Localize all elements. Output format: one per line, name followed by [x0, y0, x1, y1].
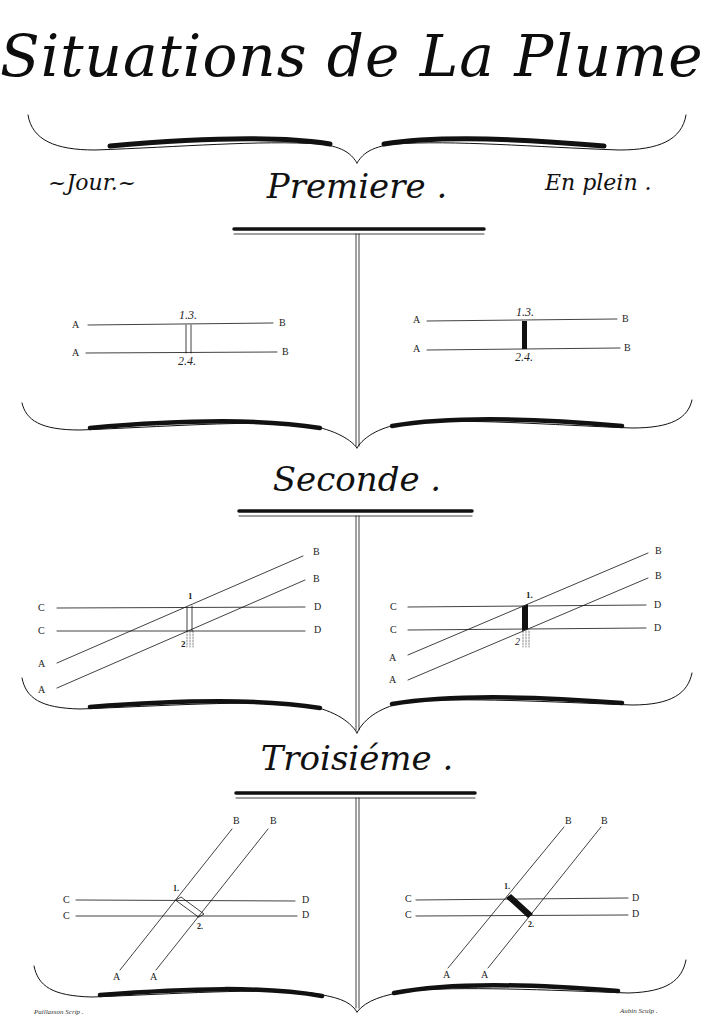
label-b-upper: B — [655, 545, 662, 556]
label-a-bottom: A — [72, 347, 79, 358]
label-b-bottom: B — [282, 346, 289, 357]
label-b-lower: B — [655, 570, 662, 581]
label-a-lower: A — [389, 674, 396, 685]
label-a-left: A — [443, 969, 450, 980]
premiere-right-diagram — [427, 319, 620, 350]
label-d-bottom: D — [632, 908, 639, 919]
label-c-bottom: C — [63, 910, 70, 921]
credit-scriptor: Paillasson Scrip . — [34, 1008, 84, 1016]
label-a-top: A — [72, 319, 79, 330]
number-2-4: 2.4. — [178, 354, 196, 369]
section-premiere-frame — [22, 229, 692, 448]
number-2: 2. — [528, 920, 534, 929]
label-b-upper: B — [313, 546, 320, 557]
label-d-bottom: D — [302, 909, 309, 920]
plate-title: Situations de La Plume . — [0, 22, 714, 90]
number-1-3: 1.3. — [179, 308, 197, 323]
label-b-left: B — [565, 815, 572, 826]
label-b-top: B — [622, 313, 629, 324]
label-c-top: C — [63, 894, 70, 905]
label-b-right: B — [270, 815, 277, 826]
label-b-left: B — [233, 815, 240, 826]
seconde-left-diagram — [57, 556, 305, 688]
troisieme-left-diagram — [76, 829, 297, 970]
number-2: 2 — [181, 639, 186, 649]
label-a-right: A — [481, 969, 488, 980]
label-a-bottom: A — [413, 343, 420, 354]
title-brace-flourish — [28, 115, 686, 163]
number-1: 1. — [173, 884, 179, 893]
engraving-plate — [0, 0, 714, 1021]
section-title-premiere: Premiere . — [0, 166, 714, 206]
label-a-upper: A — [389, 652, 396, 663]
label-c-bottom: C — [390, 624, 397, 635]
label-b-right: B — [601, 815, 608, 826]
label-c-top: C — [38, 602, 45, 613]
label-a-upper: A — [38, 658, 45, 669]
label-d-top: D — [654, 599, 661, 610]
premiere-left-diagram — [86, 323, 277, 353]
number-1: 1. — [526, 590, 533, 600]
label-a-right: A — [150, 971, 157, 982]
label-d-top: D — [314, 601, 321, 612]
label-a-top: A — [413, 314, 420, 325]
label-b-top: B — [279, 317, 286, 328]
section-seconde-frame — [22, 511, 692, 733]
label-a-left: A — [113, 971, 120, 982]
number-1: 1 — [188, 591, 193, 601]
number-1-3: 1.3. — [516, 305, 534, 320]
label-d-bottom: D — [654, 622, 661, 633]
number-2: 2 — [515, 636, 520, 647]
label-b-lower: B — [313, 573, 320, 584]
label-c-bottom: C — [405, 909, 412, 920]
label-a-lower: A — [38, 684, 45, 695]
label-b-bottom: B — [624, 342, 631, 353]
label-d-top: D — [302, 894, 309, 905]
seconde-right-diagram — [408, 553, 648, 680]
number-2: 2. — [197, 922, 203, 931]
label-c-bottom: C — [38, 625, 45, 636]
label-d-top: D — [632, 892, 639, 903]
troisieme-right-diagram — [416, 827, 628, 968]
section-title-seconde: Seconde . — [0, 459, 714, 499]
label-c-top: C — [405, 893, 412, 904]
credit-sculptor: Aubin Sculp . — [620, 1007, 658, 1015]
number-2-4: 2.4. — [515, 350, 533, 365]
label-c-top: C — [390, 601, 397, 612]
label-d-bottom: D — [314, 624, 321, 635]
section-title-troisieme: Troisiéme . — [0, 738, 714, 778]
section-troisieme-frame — [34, 793, 686, 1012]
number-1: 1. — [504, 882, 510, 891]
